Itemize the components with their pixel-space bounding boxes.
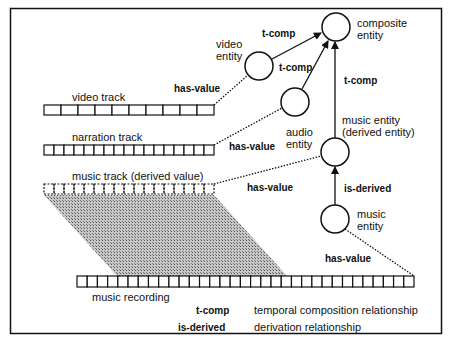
track-cell	[164, 145, 174, 155]
track-cell	[159, 276, 169, 287]
track-cell	[180, 105, 197, 115]
track-cell	[204, 184, 214, 194]
track-cell	[184, 184, 194, 194]
track-cell	[230, 276, 240, 287]
track-cell	[179, 276, 189, 287]
track-cell	[312, 276, 322, 287]
track-cell	[144, 145, 154, 155]
has-value-link-music-track	[214, 156, 321, 184]
track-cell	[64, 145, 74, 155]
track-cell	[184, 145, 194, 155]
track-cell	[189, 276, 199, 287]
track-cell	[194, 184, 204, 194]
track-cell	[174, 145, 184, 155]
track-cell	[124, 145, 134, 155]
track-cell	[128, 276, 138, 287]
track-cell	[302, 276, 312, 287]
track-cell	[210, 276, 220, 287]
track-cell	[200, 276, 210, 287]
track-cell	[404, 276, 414, 287]
track-cell	[220, 276, 230, 287]
track-cell	[353, 276, 363, 287]
track-cell	[174, 184, 184, 194]
track-cell	[74, 184, 84, 194]
track-cell	[154, 184, 164, 194]
has-value-label-music-track: has-value	[247, 182, 294, 193]
t-comp-label-audio: t-comp	[279, 62, 312, 73]
track-cell	[394, 276, 404, 287]
track-cell	[87, 276, 97, 287]
video-track	[44, 105, 214, 115]
t-comp-label-video: t-comp	[262, 28, 295, 39]
track-cell	[204, 145, 214, 155]
track-cell	[61, 105, 78, 115]
track-cell	[44, 145, 54, 155]
track-cell	[104, 184, 114, 194]
track-cell	[332, 276, 342, 287]
track-cell	[146, 105, 163, 115]
track-cell	[64, 184, 74, 194]
has-value-label-video: has-value	[174, 83, 221, 94]
track-cell	[144, 184, 154, 194]
track-cell	[94, 184, 104, 194]
track-cell	[74, 145, 84, 155]
track-cell	[108, 276, 118, 287]
music-recording-track	[77, 276, 414, 287]
video-entity-label-1: video	[216, 38, 242, 50]
legend-desc-t-comp: temporal composition relationship	[254, 304, 418, 316]
has-value-link-narration	[214, 108, 282, 145]
music-derived-entity-node	[321, 138, 349, 166]
track-cell	[114, 184, 124, 194]
track-cell	[118, 276, 128, 287]
music-entity-label-2: entity	[357, 220, 384, 232]
audio-entity-label-2: entity	[286, 138, 313, 150]
video-entity-node	[245, 52, 273, 80]
track-cell	[383, 276, 393, 287]
track-cell	[164, 184, 174, 194]
track-cell	[134, 145, 144, 155]
track-cell	[154, 145, 164, 155]
diagram: video track narration track music track …	[0, 0, 452, 348]
derivation-region	[44, 195, 287, 276]
has-value-label-recording: has-value	[325, 253, 372, 264]
track-cell	[124, 184, 134, 194]
video-track-label: video track	[72, 91, 126, 103]
track-cell	[271, 276, 281, 287]
music-track	[44, 184, 214, 194]
music-entity-label-1: music	[357, 208, 386, 220]
track-cell	[194, 145, 204, 155]
track-cell	[138, 276, 148, 287]
track-cell	[77, 276, 87, 287]
narration-track-label: narration track	[72, 131, 143, 143]
track-cell	[134, 184, 144, 194]
track-cell	[291, 276, 301, 287]
track-cell	[97, 276, 107, 287]
track-cell	[114, 145, 124, 155]
track-cell	[95, 105, 112, 115]
track-cell	[363, 276, 373, 287]
track-cell	[129, 105, 146, 115]
track-cell	[112, 105, 129, 115]
is-derived-label: is-derived	[344, 183, 391, 194]
track-cell	[84, 184, 94, 194]
audio-entity-label-1: audio	[286, 126, 313, 138]
track-cell	[169, 276, 179, 287]
track-cell	[373, 276, 383, 287]
track-cell	[84, 145, 94, 155]
narration-track	[44, 145, 214, 155]
track-cell	[251, 276, 261, 287]
music-entity-node	[321, 205, 349, 233]
has-value-label-narration: has-value	[229, 141, 276, 152]
track-cell	[54, 145, 64, 155]
music-derived-entity-label-1: music entity	[342, 114, 401, 126]
legend-desc-is-derived: derivation relationship	[254, 321, 361, 333]
track-cell	[148, 276, 158, 287]
track-cell	[104, 145, 114, 155]
audio-entity-node	[281, 88, 309, 116]
track-cell	[94, 145, 104, 155]
track-cell	[261, 276, 271, 287]
composite-entity-label-1: composite	[357, 17, 407, 29]
legend-term-t-comp: t-comp	[196, 305, 229, 316]
composite-entity-label-2: entity	[357, 29, 384, 41]
t-comp-label-music: t-comp	[344, 75, 377, 86]
